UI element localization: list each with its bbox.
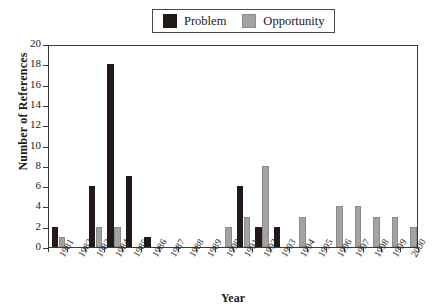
bar-opportunity-1992 (262, 166, 269, 247)
x-tick-mark (48, 248, 49, 252)
bar-problem-1981 (52, 227, 59, 247)
bar-chart: Problem Opportunity Number of References… (0, 0, 435, 307)
y-tick-label: 8 (36, 160, 42, 171)
x-tick-mark (159, 248, 160, 252)
x-tick-mark (67, 248, 68, 252)
plot-area (49, 46, 417, 247)
x-tick-mark (178, 248, 179, 252)
legend-item-problem: Problem (163, 14, 226, 28)
x-tick-mark (104, 248, 105, 252)
x-tick-mark (400, 248, 401, 252)
legend-item-opportunity: Opportunity (242, 14, 324, 28)
bar-problem-1985 (126, 176, 133, 247)
x-tick-mark (289, 248, 290, 252)
y-axis-ticks: 02468101214161820 (0, 45, 48, 248)
y-tick-label: 4 (36, 200, 42, 211)
legend-label-problem: Problem (184, 15, 226, 28)
legend-label-opportunity: Opportunity (263, 15, 324, 28)
y-tick-label: 16 (30, 79, 41, 90)
bar-problem-1984 (107, 64, 114, 247)
x-tick-mark (270, 248, 271, 252)
x-tick-mark (141, 248, 142, 252)
y-tick-label: 6 (36, 180, 42, 191)
x-tick-mark (85, 248, 86, 252)
x-tick-mark (326, 248, 327, 252)
y-tick-label: 12 (30, 119, 41, 130)
bar-problem-1991 (237, 186, 244, 247)
x-tick-mark (344, 248, 345, 252)
y-tick-label: 10 (30, 140, 41, 151)
y-tick-label: 20 (30, 38, 41, 49)
problem-swatch-icon (163, 14, 177, 28)
chart-legend: Problem Opportunity (152, 9, 335, 33)
y-tick-label: 18 (30, 58, 41, 69)
opportunity-swatch-icon (242, 14, 256, 28)
x-tick-mark (307, 248, 308, 252)
x-tick-mark (196, 248, 197, 252)
y-tick-label: 0 (36, 241, 42, 252)
y-tick-label: 2 (36, 221, 42, 232)
x-tick-mark (233, 248, 234, 252)
x-axis-ticks: 1981198219831984198519861987198819891990… (48, 248, 418, 290)
x-tick-mark (418, 248, 419, 252)
x-tick-mark (122, 248, 123, 252)
x-axis-title: Year (48, 291, 418, 306)
y-tick-label: 14 (30, 99, 41, 110)
x-tick-mark (381, 248, 382, 252)
x-tick-mark (252, 248, 253, 252)
bar-problem-1983 (89, 186, 96, 247)
x-tick-mark (363, 248, 364, 252)
x-tick-mark (215, 248, 216, 252)
plot-frame (48, 45, 418, 248)
